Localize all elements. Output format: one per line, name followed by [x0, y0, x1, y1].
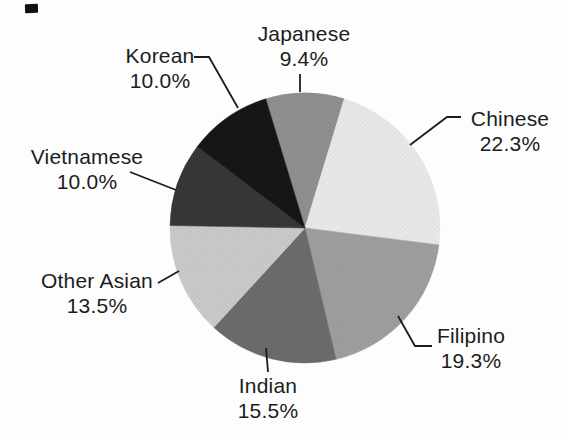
slice-name-other-asian: Other Asian: [41, 268, 153, 293]
leader-line-other-asian: [158, 271, 179, 283]
slice-percent-korean: 10.0%: [126, 68, 195, 93]
slice-percent-japanese: 9.4%: [258, 46, 351, 71]
label-korean: Korean 10.0%: [126, 43, 195, 93]
pie-chart-figure: Japanese 9.4% Chinese 22.3% Filipino 19.…: [0, 0, 566, 440]
label-vietnamese: Vietnamese 10.0%: [31, 144, 144, 194]
label-indian: Indian 15.5%: [238, 373, 299, 423]
slice-percent-filipino: 19.3%: [437, 348, 505, 373]
slice-name-korean: Korean: [126, 43, 195, 68]
slice-name-chinese: Chinese: [471, 106, 549, 131]
slice-name-indian: Indian: [238, 373, 299, 398]
slice-name-vietnamese: Vietnamese: [31, 144, 144, 169]
label-filipino: Filipino 19.3%: [437, 323, 505, 373]
slice-percent-vietnamese: 10.0%: [31, 169, 144, 194]
leader-line-korean: [194, 57, 238, 108]
slice-percent-other-asian: 13.5%: [41, 293, 153, 318]
label-chinese: Chinese 22.3%: [471, 106, 549, 156]
label-japanese: Japanese 9.4%: [258, 21, 351, 71]
pie-slices-group: [170, 93, 440, 363]
slice-percent-indian: 15.5%: [238, 398, 299, 423]
label-other-asian: Other Asian 13.5%: [41, 268, 153, 318]
slice-name-japanese: Japanese: [258, 21, 351, 46]
slice-name-filipino: Filipino: [437, 323, 505, 348]
leader-line-chinese: [410, 117, 461, 145]
slice-percent-chinese: 22.3%: [471, 131, 549, 156]
